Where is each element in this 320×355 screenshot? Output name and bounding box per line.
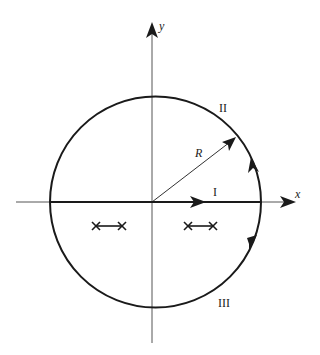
segment-II-label: II [219,101,227,115]
pole-pair-left [92,222,126,230]
segment-III-label: III [218,296,230,310]
y-axis: y [146,19,165,343]
y-axis-label: y [158,19,165,33]
x-axis-label: x [294,187,301,201]
pole-pair-right [184,222,217,230]
lower-arc-arrow-icon [247,235,257,251]
upper-arc-arrow-icon [248,157,259,173]
radius-label: R [194,146,203,160]
segment-I-label: I [213,185,217,199]
contour-diagram: x y R I II III [0,0,320,355]
radius-line [152,142,230,202]
radius-arrow-icon [222,137,236,151]
